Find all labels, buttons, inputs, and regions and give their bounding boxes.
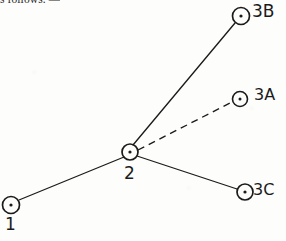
node-3a[interactable]	[233, 92, 248, 107]
node-2[interactable]	[122, 144, 138, 160]
edge-1-to-2[interactable]	[19, 157, 124, 200]
edge-2-to-3a-dashed[interactable]	[138, 102, 232, 150]
node-label-3a: 3A	[254, 85, 275, 104]
edge-2-to-3c[interactable]	[137, 156, 237, 189]
node-2-center-dot	[128, 150, 131, 153]
node-3b[interactable]	[233, 8, 250, 25]
node-label-1: 1	[5, 214, 16, 234]
scanned-page: s follows. —	[0, 0, 286, 241]
node-3b-center-dot	[239, 14, 242, 17]
node-label-2: 2	[124, 163, 135, 183]
node-label-3b: 3B	[252, 1, 274, 21]
node-3a-center-dot	[239, 98, 242, 101]
node-label-3c: 3C	[253, 180, 274, 199]
node-graph-diagram	[0, 0, 286, 241]
node-3c[interactable]	[237, 184, 253, 200]
node-1[interactable]	[3, 197, 20, 214]
node-1-center-dot	[9, 203, 12, 206]
node-3c-center-dot	[243, 190, 246, 193]
